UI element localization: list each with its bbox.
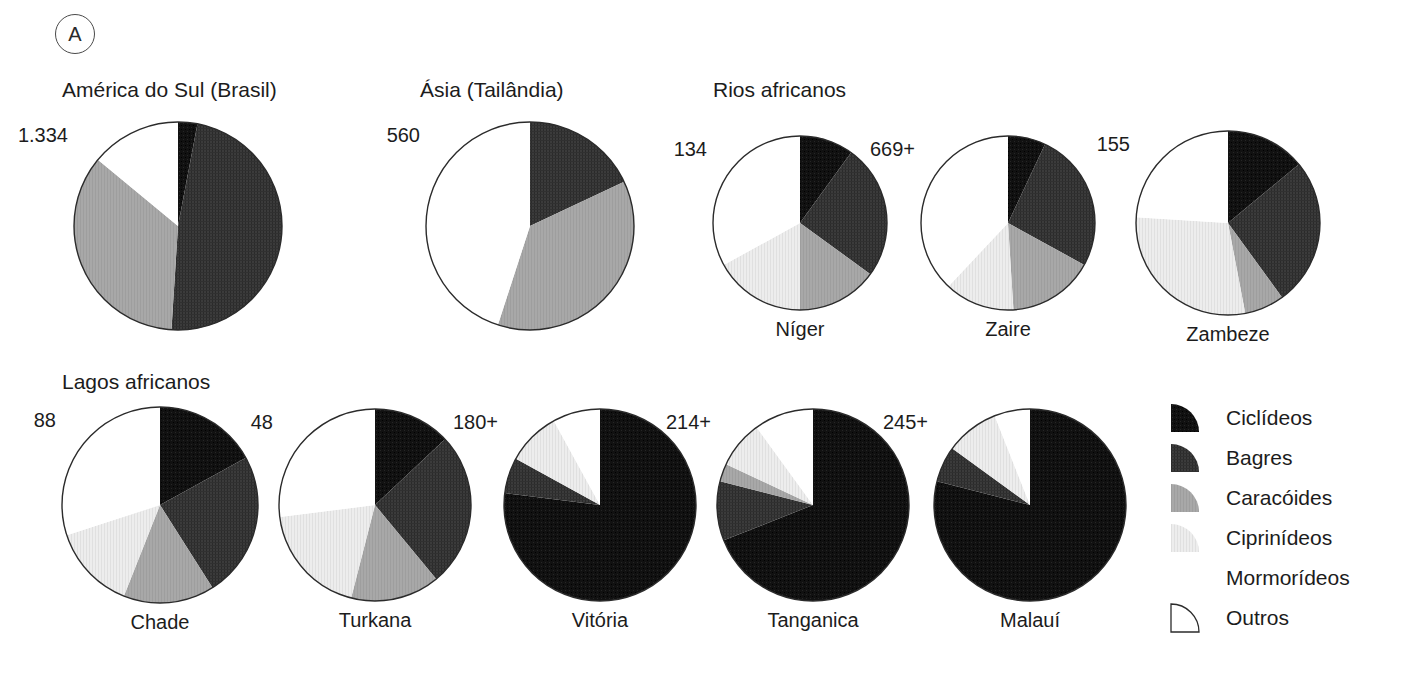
pie-slice-ciprinideos	[1136, 217, 1245, 315]
legend-item-ciclideos: Ciclídeos	[1168, 398, 1350, 438]
pie-slice-outros	[1136, 131, 1228, 223]
pie-label-zambeze: Zambeze	[1118, 323, 1338, 346]
pie-chart-am-rica-do-sul-brasil-	[71, 119, 285, 333]
pie-value-chade: 88	[0, 409, 56, 432]
legend-label-outros: Outros	[1226, 606, 1289, 630]
pie-value-tanganica: 214+	[625, 411, 711, 434]
legend-swatch-caracoides-icon	[1168, 481, 1214, 515]
legend-label-bagres: Bagres	[1226, 446, 1293, 470]
pie-label-zaire: Zaire	[898, 318, 1118, 341]
panel-marker-label: A	[68, 23, 81, 46]
pie-chart--sia-tail-ndia-	[423, 119, 637, 333]
pie-slice-outros	[279, 409, 375, 517]
pie-label-malau-: Malauí	[920, 609, 1140, 632]
legend-item-caracoides: Caracóides	[1168, 478, 1350, 518]
legend-label-ciclideos: Ciclídeos	[1226, 406, 1312, 430]
legend-item-outros: Outros	[1168, 598, 1350, 638]
figure-panel-a: A América do Sul (Brasil)Ásia (Tailândia…	[0, 0, 1410, 691]
legend-item-ciprinideos: Ciprinídeos	[1168, 518, 1350, 558]
legend-label-ciprinideos: Ciprinídeos	[1226, 526, 1332, 550]
pie-chart-zaire	[918, 133, 1098, 313]
legend-swatch-bagres-icon	[1168, 441, 1214, 475]
pie-value-vit-ria: 180+	[412, 411, 498, 434]
group-title-4: Lagos africanos	[62, 370, 210, 394]
pie-label-vit-ria: Vitória	[490, 609, 710, 632]
legend-item-mormorideos: Mormorídeos	[1168, 558, 1350, 598]
pie-chart-zambeze	[1133, 128, 1323, 318]
pie-value-malau-: 245+	[842, 411, 928, 434]
pie-value-zaire: 669+	[829, 138, 915, 161]
group-title-3: Rios africanos	[713, 78, 846, 102]
pie-label-n-ger: Níger	[690, 318, 910, 341]
pie-chart-malau-	[931, 406, 1129, 604]
pie-label-tanganica: Tanganica	[703, 609, 923, 632]
pie-value-zambeze: 155	[1044, 133, 1130, 156]
legend-swatch-ciclideos-icon	[1168, 401, 1214, 435]
pie-value--sia-tail-ndia-: 560	[334, 124, 420, 147]
pie-chart-tanganica	[714, 406, 912, 604]
pie-chart-vit-ria	[501, 406, 699, 604]
group-title-1: América do Sul (Brasil)	[62, 78, 277, 102]
legend-label-caracoides: Caracóides	[1226, 486, 1332, 510]
pie-chart-chade	[59, 404, 261, 606]
group-title-2: Ásia (Tailândia)	[420, 78, 564, 102]
pie-chart-turkana	[276, 406, 474, 604]
pie-value-turkana: 48	[187, 411, 273, 434]
pie-label-turkana: Turkana	[265, 609, 485, 632]
legend: CiclídeosBagresCaracóidesCiprinídeosMorm…	[1168, 398, 1350, 638]
legend-item-bagres: Bagres	[1168, 438, 1350, 478]
legend-swatch-mormorideos-icon	[1168, 561, 1214, 595]
pie-label-chade: Chade	[50, 611, 270, 634]
pie-value-am-rica-do-sul-brasil-: 1.334	[0, 124, 68, 147]
legend-swatch-outros-icon	[1168, 601, 1214, 635]
panel-marker-a: A	[55, 14, 95, 54]
legend-swatch-ciprinideos-icon	[1168, 521, 1214, 555]
pie-value-n-ger: 134	[621, 138, 707, 161]
legend-label-mormorideos: Mormorídeos	[1226, 566, 1350, 590]
